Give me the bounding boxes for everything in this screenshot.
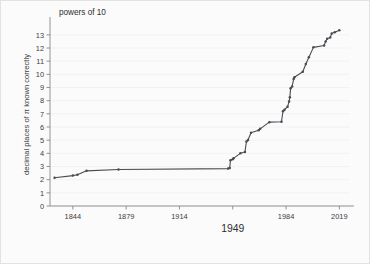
data-point-marker (293, 76, 296, 79)
data-point-marker (330, 32, 333, 35)
y-tick-label: 7 (40, 110, 44, 119)
data-point-marker (247, 139, 250, 142)
data-point-marker (244, 151, 247, 154)
y-tick-label: 2 (40, 175, 44, 184)
data-point-marker (324, 40, 327, 43)
data-point-marker (229, 159, 232, 162)
data-point-marker (289, 96, 292, 99)
data-point-marker (232, 157, 235, 160)
x-tick-label: 2019 (331, 212, 347, 221)
y-tick-label: 13 (36, 31, 44, 40)
y-tick-label: 6 (40, 123, 44, 132)
series-line (55, 30, 340, 177)
y-axis-ticks: 012345678910111213 (36, 31, 50, 211)
y-tick-label: 11 (36, 57, 44, 66)
y-tick-label: 0 (40, 202, 44, 211)
y-tick-label: 1 (40, 189, 44, 198)
y-tick-label: 3 (40, 162, 44, 171)
data-point-marker (312, 46, 315, 49)
data-point-marker (85, 170, 88, 173)
y-tick-label: 12 (36, 44, 44, 53)
plot-title: powers of 10 (59, 8, 106, 17)
x-tick-label: 1984 (278, 212, 294, 221)
y-tick-label: 4 (40, 149, 44, 158)
data-point-marker (286, 105, 289, 108)
data-point-marker (288, 100, 291, 103)
pi-decimal-places-line-chart: 012345678910111213 184418791914194919842… (1, 1, 370, 264)
data-point-marker (239, 152, 242, 155)
data-point-marker (268, 121, 271, 124)
data-point-marker (323, 44, 326, 47)
data-point-marker (283, 108, 286, 111)
x-tick-label: 1844 (65, 212, 81, 221)
data-series-group (53, 29, 340, 179)
x-tick-label: 1879 (118, 212, 134, 221)
data-point-marker (308, 56, 311, 59)
data-point-marker (302, 70, 305, 73)
data-point-marker (72, 174, 75, 177)
y-tick-label: 8 (40, 96, 44, 105)
gridline-group (50, 35, 350, 206)
data-point-marker (338, 29, 341, 32)
x-tick-label: 1914 (171, 212, 187, 221)
data-point-marker (291, 85, 294, 88)
y-axis-title: decimal places of π known correctly (22, 54, 31, 175)
axis-group (50, 17, 354, 206)
y-tick-label: 9 (40, 83, 44, 92)
x-axis-ticks: 184418791914194919842019 (65, 206, 348, 234)
y-tick-label: 10 (36, 70, 44, 79)
data-point-marker (53, 176, 56, 179)
data-point-marker (259, 128, 262, 131)
data-point-marker (117, 168, 120, 171)
chart-figure: 012345678910111213 184418791914194919842… (0, 0, 370, 264)
y-tick-label: 5 (40, 136, 44, 145)
data-point-marker (228, 167, 231, 170)
data-point-marker (76, 173, 79, 176)
data-point-marker (329, 36, 332, 39)
data-point-marker (334, 31, 337, 34)
data-point-marker (305, 63, 308, 66)
data-point-marker (280, 120, 283, 123)
data-point-marker (326, 38, 329, 41)
x-tick-label: 1949 (221, 223, 244, 234)
data-point-marker (250, 132, 253, 135)
